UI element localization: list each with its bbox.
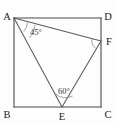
angle-arc-f [92,39,96,48]
vertex-label-f: F [106,36,112,47]
vertex-label-c: C [104,109,111,120]
vertex-label-d: D [104,11,112,22]
geometry-figure: A D B C E F 45° 60° [0,0,118,124]
angle-label-60: 60° [58,86,70,96]
segment-fe [62,41,101,107]
angle-arc-a-inner [24,22,28,31]
vertex-label-b: B [3,109,10,120]
figure-canvas: A D B C E F 45° 60° [0,0,118,124]
segment-af [14,18,101,41]
angle-label-45: 45° [30,27,42,37]
vertex-label-e: E [59,111,65,122]
vertex-label-a: A [3,11,11,22]
